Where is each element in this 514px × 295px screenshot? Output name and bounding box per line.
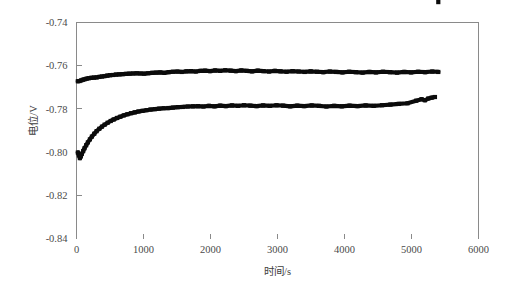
data-point-marker (146, 71, 150, 75)
data-point-marker (184, 69, 188, 73)
plot-frame (77, 23, 479, 239)
x-tick-label: 5000 (401, 244, 422, 255)
data-point-marker (340, 104, 344, 108)
data-point-marker (261, 103, 265, 107)
data-point-marker (381, 70, 385, 74)
data-point-marker (230, 103, 234, 107)
data-point-marker (245, 69, 249, 73)
chart-canvas: -0.74-0.76-0.78-0.80-0.82-0.84 010002000… (0, 0, 514, 295)
data-series-group (76, 0, 441, 160)
data-point-marker (360, 71, 364, 75)
data-point-marker (290, 69, 294, 73)
data-point-marker (268, 104, 272, 108)
data-point-marker (166, 106, 170, 110)
data-point-marker (288, 104, 292, 108)
data-point-marker (136, 109, 140, 113)
data-point-marker (303, 70, 307, 74)
x-tick-label: 4000 (334, 244, 355, 255)
data-point-marker (171, 70, 175, 74)
data-point-marker (150, 71, 154, 75)
data-point-marker (212, 104, 216, 108)
data-point-marker (340, 70, 344, 74)
data-point-marker (416, 70, 420, 74)
data-point-marker (213, 68, 217, 72)
data-point-marker (162, 71, 166, 75)
data-point-marker (250, 69, 254, 73)
data-point-marker (125, 112, 129, 116)
data-point-marker (148, 107, 152, 111)
data-point-marker (223, 68, 227, 72)
data-point-marker (138, 71, 142, 75)
x-tick-label: 3000 (267, 244, 288, 255)
data-point-marker (158, 70, 162, 74)
data-point-marker (203, 69, 207, 73)
data-point-marker (218, 104, 222, 108)
data-point-marker (295, 104, 299, 108)
data-point-marker (317, 104, 321, 108)
data-point-marker (189, 69, 193, 73)
data-point-marker (332, 104, 336, 108)
data-point-marker (131, 71, 135, 75)
data-point-marker (256, 69, 260, 73)
data-point-marker (355, 104, 359, 108)
data-point-marker (278, 69, 282, 73)
data-point-marker (321, 70, 325, 74)
data-point-marker (167, 70, 171, 74)
data-point-marker (201, 104, 205, 108)
y-tick-label: -0.74 (46, 17, 69, 28)
data-point-marker (433, 95, 437, 99)
data-point-marker (436, 70, 440, 74)
data-point-marker (436, 0, 440, 4)
data-point-marker (191, 104, 195, 108)
data-point-marker (261, 69, 265, 73)
data-point-marker (274, 103, 278, 107)
data-point-marker (194, 69, 198, 73)
potential-vs-time-chart: -0.74-0.76-0.78-0.80-0.82-0.84 010002000… (0, 0, 514, 295)
data-point-marker (402, 70, 406, 74)
data-point-marker (364, 103, 368, 107)
data-point-marker (388, 102, 392, 106)
data-point-marker (186, 104, 190, 108)
data-point-marker (133, 110, 137, 114)
data-point-marker (144, 108, 148, 112)
data-point-marker (380, 103, 384, 107)
data-point-marker (297, 69, 301, 73)
data-point-marker (388, 70, 392, 74)
data-point-marker (334, 70, 338, 74)
data-point-marker (405, 101, 409, 105)
data-point-marker (347, 70, 351, 74)
data-point-marker (234, 69, 238, 73)
data-point-marker (267, 69, 271, 73)
y-tick-label: -0.84 (46, 233, 69, 244)
axis-frame (77, 23, 479, 239)
data-point-marker (309, 69, 313, 73)
data-point-marker (315, 70, 319, 74)
y-tick-label: -0.80 (46, 147, 68, 158)
data-point-marker (414, 99, 418, 103)
data-point-marker (153, 107, 157, 111)
data-point-marker (181, 105, 185, 109)
data-point-marker (198, 69, 202, 73)
x-axis-ticks: 0100020003000400050006000 (74, 234, 489, 255)
data-point-marker (354, 70, 358, 74)
data-point-marker (162, 106, 166, 110)
data-point-marker (409, 70, 413, 74)
data-point-marker (196, 104, 200, 108)
data-point-marker (367, 70, 371, 74)
data-point-marker (236, 104, 240, 108)
data-point-marker (284, 70, 288, 74)
data-point-marker (176, 105, 180, 109)
data-point-marker (242, 103, 246, 107)
y-axis-title: 电位/V (27, 105, 39, 136)
data-point-marker (430, 69, 434, 73)
data-point-marker (374, 70, 378, 74)
data-point-marker (395, 71, 399, 75)
data-point-marker (324, 104, 328, 108)
data-point-marker (171, 106, 175, 110)
x-tick-label: 2000 (200, 244, 221, 255)
x-axis-title: 时间/s (264, 265, 291, 277)
data-point-marker (207, 104, 211, 108)
data-point-marker (142, 72, 146, 76)
data-point-marker (423, 70, 427, 74)
data-point-marker (122, 113, 126, 117)
